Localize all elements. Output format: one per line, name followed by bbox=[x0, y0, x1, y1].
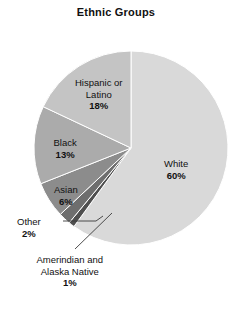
pie-label-other: Other2% bbox=[17, 216, 41, 239]
pie-label-name-white-0: White bbox=[164, 158, 188, 170]
pie-chart-figure: Ethnic Groups White60%Amerindian andAlas… bbox=[0, 0, 232, 309]
pie-label-name-hispanic-0: Hispanic or bbox=[75, 77, 123, 89]
pie-label-black: Black13% bbox=[54, 137, 77, 160]
pie-chart-graphic bbox=[0, 0, 232, 309]
pie-label-name-other-0: Other bbox=[17, 216, 41, 228]
pie-label-value-other: 2% bbox=[17, 228, 41, 240]
pie-label-name-amerindian-0: Amerindian and bbox=[37, 254, 104, 266]
pie-label-white: White60% bbox=[164, 158, 188, 181]
pie-label-value-amerindian: 1% bbox=[37, 277, 104, 289]
pie-label-name-amerindian-1: Alaska Native bbox=[37, 266, 104, 278]
pie-label-name-asian-0: Asian bbox=[54, 184, 78, 196]
pie-label-asian: Asian6% bbox=[54, 184, 78, 207]
pie-label-amerindian: Amerindian andAlaska Native1% bbox=[37, 254, 104, 289]
pie-label-hispanic: Hispanic orLatino18% bbox=[75, 77, 123, 112]
pie-label-value-asian: 6% bbox=[54, 196, 78, 208]
pie-label-value-hispanic: 18% bbox=[75, 100, 123, 112]
pie-label-name-hispanic-1: Latino bbox=[75, 89, 123, 101]
pie-label-value-white: 60% bbox=[164, 170, 188, 182]
pie-label-name-black-0: Black bbox=[54, 137, 77, 149]
pie-label-value-black: 13% bbox=[54, 149, 77, 161]
